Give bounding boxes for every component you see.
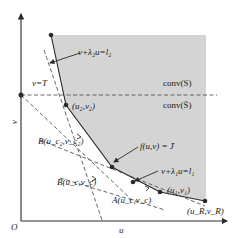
v-T-label: v=T bbox=[32, 78, 48, 88]
conv-S-label: conv(S) bbox=[163, 78, 192, 88]
level-set-label: f(u,v) = J̄ bbox=[140, 141, 175, 151]
point-A-label: A(u_c,v_c) bbox=[111, 195, 151, 205]
point-B2-label: B(u_c₂,v_c₂) bbox=[38, 136, 83, 146]
point-u1-v1 bbox=[158, 190, 163, 195]
line2-label: v+λ₂u=l₂ bbox=[78, 47, 111, 57]
point-uR-vR bbox=[203, 199, 208, 204]
point-top bbox=[49, 33, 54, 38]
point-u2-v2-label: (u₂,v₂) bbox=[72, 101, 95, 111]
diagram: O u v v=T v+λ₂u=l₂ conv(S) conv(S̄) (u₂,… bbox=[0, 0, 234, 238]
point-uR-vR-label: (u_R,v_R) bbox=[187, 206, 224, 216]
conv-S-bar-label: conv(S̄) bbox=[163, 100, 192, 110]
y-axis-label: v bbox=[9, 120, 19, 124]
point-u2-v2 bbox=[64, 103, 69, 108]
point-T-on-axis bbox=[19, 93, 24, 98]
point-A bbox=[131, 180, 136, 185]
origin-label: O bbox=[11, 222, 18, 232]
point-u1-v1-label: (u₁,v₁) bbox=[167, 185, 190, 195]
x-axis-label: u bbox=[119, 225, 124, 235]
arrow-A bbox=[145, 186, 149, 191]
point-B-label: B(u_c,v_c) bbox=[57, 177, 96, 187]
line1-label: v+λ₁u=l₁ bbox=[161, 166, 194, 176]
point-mid bbox=[110, 165, 115, 170]
